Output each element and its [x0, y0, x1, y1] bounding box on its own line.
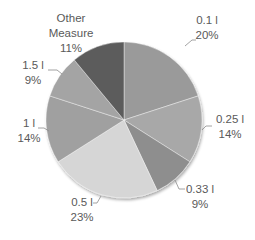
data-label: 1 l14% [17, 117, 40, 144]
data-label: 0.25 l14% [216, 113, 244, 140]
data-label: 1.5 l9% [22, 59, 44, 86]
data-label-percent: 14% [17, 132, 40, 144]
data-label-percent: 11% [60, 42, 82, 54]
data-label-percent: 9% [25, 74, 42, 86]
pie-chart: 0.1 l20%0.25 l14%0.33 l9%0.5 l23%1 l14%1… [0, 0, 255, 240]
data-label: 0.5 l23% [70, 196, 93, 223]
leader-line [175, 180, 185, 189]
data-label-percent: 14% [218, 128, 241, 140]
data-label: 0.33 l9% [186, 183, 214, 210]
data-label-category: 0.1 l [196, 14, 218, 26]
data-label-category: 0.25 l [216, 113, 244, 125]
data-label: OtherMeasure11% [49, 12, 94, 54]
data-label-category: Measure [49, 27, 94, 39]
leader-line [185, 40, 196, 46]
data-label-percent: 23% [70, 211, 93, 223]
data-label-category: 0.5 l [71, 196, 93, 208]
leader-line [202, 126, 212, 130]
leader-line [93, 196, 101, 203]
data-label-category: 1.5 l [22, 59, 44, 71]
data-label-category: 1 l [23, 117, 35, 129]
data-label-category: 0.33 l [186, 183, 214, 195]
pie-slices [46, 42, 202, 198]
data-label-category: Other [57, 12, 86, 24]
data-label-percent: 9% [192, 198, 209, 210]
data-label-percent: 20% [195, 29, 218, 41]
data-label: 0.1 l20% [195, 14, 218, 41]
leader-line [48, 70, 62, 74]
